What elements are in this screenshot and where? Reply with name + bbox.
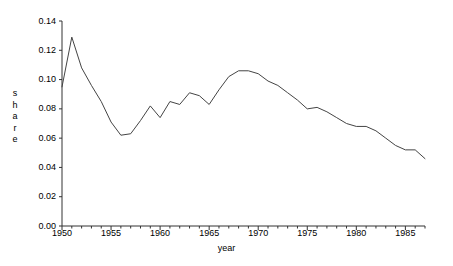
plot-area <box>0 0 453 266</box>
axes <box>62 21 425 226</box>
data-series-line <box>62 37 425 159</box>
line-chart: s h a r e year 0.000.020.040.060.080.100… <box>0 0 453 266</box>
